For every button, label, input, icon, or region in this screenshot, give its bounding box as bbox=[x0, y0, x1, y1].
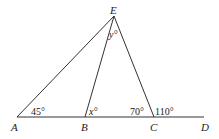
point-label-B: B bbox=[81, 121, 88, 133]
angle-label-C-exterior: 110° bbox=[155, 106, 174, 117]
point-label-D: D bbox=[200, 121, 209, 133]
line-CE bbox=[114, 16, 154, 117]
angle-label-B: x° bbox=[88, 106, 97, 117]
point-label-A: A bbox=[10, 121, 18, 133]
angle-label-A: 45° bbox=[31, 106, 45, 117]
point-label-C: C bbox=[150, 121, 158, 133]
point-label-E: E bbox=[109, 4, 117, 16]
angle-label-E: y° bbox=[108, 29, 117, 40]
geometry-diagram: E A B C D 45° x° 70° 110° y° bbox=[0, 0, 219, 139]
angle-label-C-interior: 70° bbox=[130, 106, 144, 117]
